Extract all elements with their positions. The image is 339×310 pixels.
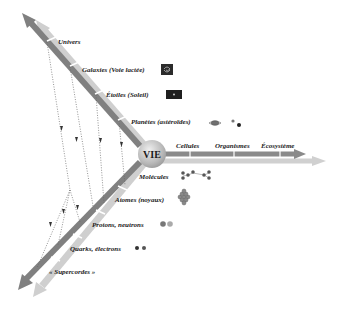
quark-electron-icon bbox=[135, 246, 146, 250]
label-atomes: Atomes (noyaux) bbox=[114, 196, 164, 204]
arrowhead bbox=[75, 137, 78, 142]
galaxy-icon bbox=[161, 64, 173, 75]
label-ecosysteme: Écosystème bbox=[260, 142, 294, 150]
label-cellules: Cellules bbox=[176, 142, 200, 150]
label-molecules: Molécules bbox=[138, 173, 169, 181]
label-quarks: Quarks, électrons bbox=[70, 245, 121, 253]
dotted-arrowheads bbox=[49, 126, 123, 227]
label-supercordes: « Supercordes » bbox=[49, 268, 96, 276]
upper-dark-arrow bbox=[22, 13, 140, 146]
label-etoiles: Étoiles (Soleil) bbox=[105, 91, 149, 99]
vie-node: VIE bbox=[138, 140, 166, 168]
upper-light-arrow bbox=[36, 20, 152, 154]
arrowhead bbox=[49, 222, 52, 227]
star-icon bbox=[166, 90, 182, 99]
label-planetes: Planètes (astéroïdes) bbox=[131, 118, 191, 126]
molecule-icon bbox=[181, 170, 210, 179]
scale-of-life-diagram: VIE Univers Galaxies (Voie lactée) Étoil… bbox=[0, 0, 339, 310]
planet-asteroids-icon bbox=[209, 119, 241, 127]
right-dark-arrow bbox=[160, 149, 306, 159]
label-univers: Univers bbox=[58, 38, 81, 46]
arrowhead bbox=[120, 142, 123, 147]
arrowhead bbox=[62, 209, 65, 214]
label-organismes: Organismes bbox=[215, 142, 250, 150]
arrowhead bbox=[76, 205, 79, 210]
atom-nucleus-icon bbox=[178, 189, 190, 205]
label-protons: Protons, neutrons bbox=[92, 221, 144, 229]
connector-etoiles bbox=[96, 95, 104, 203]
right-light-arrow bbox=[152, 156, 326, 166]
vie-label: VIE bbox=[143, 149, 161, 160]
proton-neutron-icon bbox=[160, 221, 173, 227]
label-galaxies: Galaxies (Voie lactée) bbox=[82, 66, 145, 74]
